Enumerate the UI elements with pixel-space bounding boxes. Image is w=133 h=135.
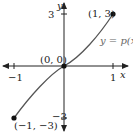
- x-axis-label: x: [120, 69, 126, 80]
- point-label-origin: (0, 0): [40, 54, 67, 65]
- y-tick-label-3: 3: [48, 9, 54, 20]
- x-tick-label-neg1: −1: [8, 72, 23, 83]
- point-label-1-3: (1, 3): [88, 8, 115, 19]
- function-graph: y x 3 −3 −1 1 (1, 3) (0, 0) (−1, −3) y =…: [0, 0, 133, 135]
- y-axis-label: y: [56, 0, 63, 11]
- curve-label: y = p(x: [99, 35, 133, 46]
- x-tick-label-1: 1: [110, 72, 116, 83]
- point-label-neg1-neg3: (−1, −3): [14, 120, 58, 131]
